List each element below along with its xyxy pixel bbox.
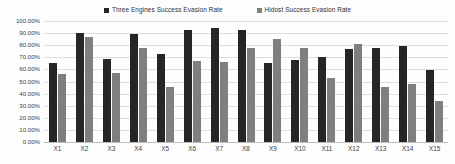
x-axis-tick-label: X10 <box>286 143 313 157</box>
y-axis-tick-label: 30.00% <box>0 103 40 109</box>
bar-x2-series-a <box>76 33 84 143</box>
bar-group <box>286 21 313 142</box>
bar-group <box>340 21 367 142</box>
bar-x12-series-b <box>354 44 362 142</box>
x-axis-tick-label: X6 <box>179 143 206 157</box>
bars-layer <box>44 21 448 142</box>
bar-group <box>394 21 421 142</box>
bar-x8-series-a <box>238 30 246 142</box>
bar-group <box>260 21 287 142</box>
x-axis-tick-label: X9 <box>260 143 287 157</box>
y-axis-tick-label: 100.00% <box>0 18 40 24</box>
bar-x5-series-b <box>166 87 174 142</box>
chart-legend: Three Engines Success Evasion Rate Hidos… <box>0 3 455 17</box>
y-axis: 100.00%90.00%80.00%70.00%60.00%50.00%40.… <box>0 21 42 142</box>
x-axis-tick-label: X1 <box>44 143 71 157</box>
bar-x11-series-a <box>318 57 326 142</box>
bar-x8-series-b <box>247 48 255 142</box>
bar-x1-series-b <box>58 74 66 142</box>
x-axis-tick-label: X15 <box>421 143 448 157</box>
y-axis-tick-label: 10.00% <box>0 127 40 133</box>
bar-x7-series-b <box>220 62 228 142</box>
bar-x3-series-b <box>112 73 120 142</box>
bar-group <box>152 21 179 142</box>
bar-group <box>98 21 125 142</box>
bar-group <box>179 21 206 142</box>
bar-x7-series-a <box>211 28 219 142</box>
y-axis-tick-label: 90.00% <box>0 30 40 36</box>
bar-x9-series-b <box>273 39 281 142</box>
x-axis-tick-label: X12 <box>340 143 367 157</box>
bar-x5-series-a <box>157 54 165 142</box>
x-axis-tick-label: X5 <box>152 143 179 157</box>
bar-x10-series-a <box>291 60 299 142</box>
x-axis-tick-label: X11 <box>313 143 340 157</box>
y-axis-tick-label: 40.00% <box>0 91 40 97</box>
bar-x14-series-a <box>399 46 407 142</box>
bar-x13-series-a <box>372 48 380 142</box>
bar-x12-series-a <box>345 49 353 142</box>
bar-x13-series-b <box>381 87 389 142</box>
bar-group <box>125 21 152 142</box>
y-axis-tick-label: 0.00% <box>0 139 40 145</box>
x-axis-tick-label: X2 <box>71 143 98 157</box>
bar-x4-series-a <box>130 34 138 142</box>
bar-x6-series-b <box>193 61 201 142</box>
bar-x14-series-b <box>408 84 416 142</box>
x-axis-tick-label: X8 <box>233 143 260 157</box>
x-axis-tick-label: X7 <box>206 143 233 157</box>
x-axis-tick-label: X13 <box>367 143 394 157</box>
bar-x10-series-b <box>300 48 308 142</box>
bar-group <box>313 21 340 142</box>
x-axis: X1X2X3X4X5X6X7X8X9X10X11X12X13X14X15 <box>44 143 448 157</box>
bar-x9-series-a <box>264 63 272 142</box>
legend-label-series-b: Hidost Success Evasion Rate <box>265 6 352 14</box>
bar-x1-series-a <box>49 63 57 142</box>
legend-entry-series-b: Hidost Success Evasion Rate <box>257 6 352 14</box>
bar-group <box>367 21 394 142</box>
x-axis-tick-label: X3 <box>98 143 125 157</box>
legend-swatch-gray-icon <box>257 8 262 13</box>
y-axis-tick-label: 20.00% <box>0 115 40 121</box>
legend-label-series-a: Three Engines Success Evasion Rate <box>112 6 223 14</box>
x-axis-tick-label: X14 <box>394 143 421 157</box>
y-axis-tick-label: 80.00% <box>0 42 40 48</box>
x-axis-tick-label: X4 <box>125 143 152 157</box>
bar-x3-series-a <box>103 59 111 142</box>
bar-chart: Three Engines Success Evasion Rate Hidos… <box>0 0 455 164</box>
bar-group <box>421 21 448 142</box>
y-axis-tick-label: 50.00% <box>0 78 40 84</box>
bar-group <box>206 21 233 142</box>
bar-group <box>233 21 260 142</box>
bar-group <box>71 21 98 142</box>
bar-x15-series-a <box>426 70 434 142</box>
bar-group <box>44 21 71 142</box>
y-axis-tick-label: 70.00% <box>0 54 40 60</box>
legend-entry-series-a: Three Engines Success Evasion Rate <box>104 6 223 14</box>
bar-x15-series-b <box>435 101 443 142</box>
bar-x6-series-a <box>184 30 192 142</box>
bar-x11-series-b <box>327 78 335 142</box>
legend-swatch-dark-icon <box>104 8 109 13</box>
bar-x2-series-b <box>85 37 93 142</box>
bar-x4-series-b <box>139 48 147 142</box>
y-axis-tick-label: 60.00% <box>0 66 40 72</box>
